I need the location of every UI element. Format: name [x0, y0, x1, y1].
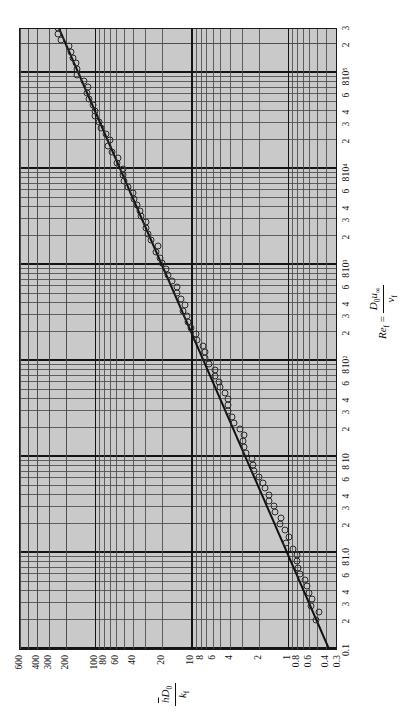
- data-point: [192, 330, 199, 337]
- data-point: [173, 283, 180, 290]
- x-axis-tick-label: 8: [341, 80, 351, 85]
- data-point: [312, 616, 319, 623]
- x-axis-tick-label: 4: [341, 109, 351, 114]
- x-axis-tick-label: 2: [341, 138, 351, 143]
- x-axis-tick-label: 10²: [341, 355, 351, 368]
- x-axis-tick-label: 6: [341, 476, 351, 481]
- x-axis-tick-label: 8: [341, 368, 351, 373]
- data-point: [315, 609, 322, 616]
- gridline-horizontal: [116, 29, 117, 649]
- x-axis-tick-label: 3: [341, 121, 351, 126]
- y-axis-tick-label: 0.6: [303, 655, 313, 667]
- gridline-horizontal: [162, 29, 163, 649]
- x-axis-title-fraction: D0u∞νf: [367, 284, 399, 313]
- y-axis-tick-label: 0.4: [319, 655, 329, 667]
- x-axis-tick-label: 2: [341, 330, 351, 335]
- gridline-horizontal: [123, 29, 124, 649]
- data-point: [255, 473, 262, 480]
- x-axis-tick-label: 4: [341, 301, 351, 306]
- data-point: [307, 602, 314, 609]
- data-point: [305, 589, 312, 596]
- data-point: [205, 360, 212, 367]
- x-axis-tick-label: 6: [341, 284, 351, 289]
- gridline-horizontal: [104, 29, 105, 649]
- data-point: [119, 165, 126, 172]
- x-axis-tick-label: 2: [341, 618, 351, 623]
- y-axis-tick-label: 100: [88, 655, 98, 670]
- data-point: [54, 28, 61, 32]
- x-axis-tick-label: 0.1: [341, 643, 351, 655]
- data-point: [277, 514, 284, 521]
- y-axis-tick-label: 300: [43, 655, 53, 670]
- y-axis-tick-label: 40: [127, 655, 137, 665]
- y-axis-tick-label: 0.3: [332, 655, 342, 667]
- gridline-horizontal: [212, 29, 213, 649]
- x-axis-tick-label: 3: [341, 217, 351, 222]
- gridline-horizontal: [20, 29, 21, 649]
- x-axis-tick-label: 8: [341, 176, 351, 181]
- y-axis-title-numerator: hD0: [159, 682, 176, 705]
- y-axis-tick-label: 4: [223, 655, 233, 660]
- y-axis-tick-label: 60: [110, 655, 120, 665]
- x-axis-tick-label: 3: [341, 601, 351, 606]
- y-axis-tick-label: 2: [252, 655, 262, 660]
- gridline-horizontal: [206, 29, 207, 649]
- y-den-k-sub: f: [182, 690, 191, 693]
- y-axis-tick-label: 20: [156, 655, 166, 665]
- data-point: [199, 342, 206, 349]
- data-point: [301, 576, 308, 583]
- y-axis-tick-label: 6: [206, 655, 216, 660]
- gridline-horizontal: [302, 29, 303, 649]
- x-axis-tick-label: 6: [341, 188, 351, 193]
- data-point: [281, 526, 288, 533]
- gridline-horizontal: [229, 29, 230, 649]
- x-axis-tick-label: 2: [341, 234, 351, 239]
- x-num-D-sub: 0: [373, 298, 382, 302]
- x-axis-tick-label: 8: [341, 464, 351, 469]
- y-axis-title-fraction: hD0kf: [159, 682, 191, 705]
- gridline-horizontal: [65, 29, 66, 649]
- plot-area: [19, 28, 337, 650]
- x-axis-tick-label: 2: [341, 426, 351, 431]
- x-axis-tick-label: 10: [341, 453, 351, 463]
- gridline-horizontal: [133, 29, 134, 649]
- x-axis-tick-label: 2: [341, 522, 351, 527]
- gridline-horizontal: [27, 29, 28, 649]
- data-point: [211, 366, 218, 373]
- y-num-D: D: [159, 689, 171, 697]
- x-axis-tick-label: 6: [341, 572, 351, 577]
- figure-rotator: Ref = D0u∞νf hD0kf 0.1234681.02346810234…: [9, 12, 409, 712]
- x-axis-tick-label: 4: [341, 493, 351, 498]
- y-axis-tick-label: 400: [30, 655, 40, 670]
- x-axis-tick-label: 3: [341, 313, 351, 318]
- x-axis-tick-label: 10⁵: [341, 67, 351, 80]
- y-axis-title: hD0kf: [159, 682, 191, 705]
- log-log-chart: Ref = D0u∞νf hD0kf 0.1234681.02346810234…: [9, 12, 409, 712]
- data-point: [289, 545, 296, 552]
- y-axis-tick-label: 8: [194, 655, 204, 660]
- x-num-D: D: [367, 302, 379, 310]
- y-axis-tick-label: 1: [281, 655, 291, 660]
- data-point: [236, 425, 243, 432]
- y-axis-tick-label: 0.8: [290, 655, 300, 667]
- x-axis-tick-label: 6: [341, 380, 351, 385]
- y-num-h: h: [159, 697, 171, 703]
- data-point: [154, 242, 161, 249]
- gridline-horizontal: [109, 29, 110, 649]
- x-axis-tick-label: 4: [341, 589, 351, 594]
- x-axis-title-equals: =: [375, 313, 387, 325]
- data-point: [114, 154, 121, 161]
- x-axis-tick-label: 3: [341, 505, 351, 510]
- gridline-horizontal: [309, 29, 310, 649]
- y-axis-tick-label: 200: [59, 655, 69, 670]
- gridline-horizontal: [258, 29, 259, 649]
- y-den-k: k: [175, 693, 187, 698]
- x-axis-tick-label: 10⁴: [341, 163, 351, 176]
- x-num-u-sub: ∞: [373, 287, 382, 292]
- y-num-D-sub: 0: [165, 685, 174, 689]
- x-axis-tick-label: 6: [341, 92, 351, 97]
- data-point: [142, 218, 149, 225]
- y-axis-tick-label: 10: [185, 655, 195, 665]
- gridline-horizontal: [145, 29, 146, 649]
- y-axis-tick-label: 80: [98, 655, 108, 665]
